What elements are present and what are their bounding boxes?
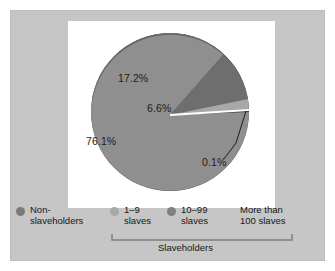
- legend-item-1-9-slaves[interactable]: 1–9 slaves: [110, 205, 151, 226]
- chart-legend: Non- slaveholders 1–9 slaves 10–99 slave…: [10, 199, 325, 261]
- legend-label: 1–9 slaves: [124, 205, 151, 226]
- legend-label: More than 100 slaves: [240, 205, 285, 226]
- bracket-path: [112, 234, 292, 240]
- pie-chart-figure: 76.1% 17.2% 6.6% 0.1% Non- slaveholders …: [0, 0, 335, 271]
- legend-label: 10–99 slaves: [181, 205, 208, 226]
- legend-swatch-icon: [110, 207, 119, 216]
- legend-group-label: Slaveholders: [10, 242, 325, 253]
- legend-group-label-text: Slaveholders: [158, 242, 213, 253]
- legend-swatch-icon: [167, 207, 176, 216]
- slice-label-1-9-slaves: 17.2%: [118, 72, 148, 84]
- legend-item-non-slaveholders[interactable]: Non- slaveholders: [16, 205, 83, 226]
- slice-label-10-99-slaves: 6.6%: [147, 102, 171, 114]
- legend-swatch-icon: [226, 207, 235, 216]
- legend-swatch-icon: [16, 207, 25, 216]
- legend-item-10-99-slaves[interactable]: 10–99 slaves: [167, 205, 208, 226]
- legend-item-100-plus-slaves[interactable]: More than 100 slaves: [226, 205, 285, 226]
- legend-label: Non- slaveholders: [30, 205, 83, 226]
- slice-label-non-slaveholders: 76.1%: [86, 135, 116, 147]
- slice-label-100-plus-slaves: 0.1%: [202, 156, 226, 168]
- chart-panel: 76.1% 17.2% 6.6% 0.1% Non- slaveholders …: [10, 10, 325, 261]
